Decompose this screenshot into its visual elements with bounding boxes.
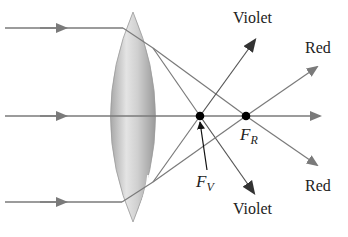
diagram-canvas: [0, 0, 348, 237]
ray-bottom-red-continue: [246, 67, 317, 116]
focal-point-violet: [196, 112, 205, 121]
ray-bottom-violet: [153, 116, 200, 182]
focal-point-red: [242, 112, 251, 121]
label-violet-bottom: Violet: [233, 201, 272, 217]
label-red-bottom: Red: [305, 178, 331, 194]
converging-lens: [111, 12, 156, 222]
label-violet-top: Violet: [233, 10, 272, 26]
ray-bottom-violet-continue: [200, 40, 255, 116]
ray-top-violet: [153, 48, 200, 116]
label-focal-red: FR: [240, 126, 258, 146]
label-focal-violet: FV: [196, 173, 214, 193]
chromatic-aberration-diagram: Violet Red Red Violet FV FR: [0, 0, 348, 237]
fv-pointer-arrow: [200, 122, 207, 170]
ray-top-red: [153, 48, 246, 116]
label-red-top: Red: [305, 40, 331, 56]
